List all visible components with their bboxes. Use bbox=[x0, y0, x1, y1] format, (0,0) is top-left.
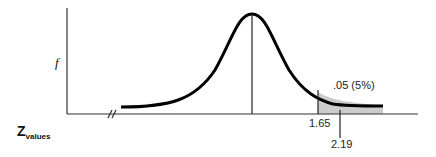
y-axis-label: f bbox=[55, 55, 59, 71]
shaded-area-label: .05 (5%) bbox=[333, 79, 375, 91]
critical-value-label: 1.65 bbox=[309, 117, 330, 129]
x-axis-label-sub: values bbox=[26, 132, 51, 141]
x-axis-label-main: Z bbox=[17, 123, 26, 139]
x-axis-label: Zvalues bbox=[17, 123, 50, 141]
observed-value-label: 2.19 bbox=[331, 138, 352, 150]
